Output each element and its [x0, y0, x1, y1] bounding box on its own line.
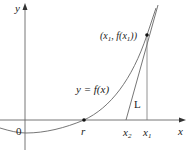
point-label: (x1, f(x1))	[100, 30, 138, 43]
root-point	[82, 118, 86, 122]
curve-label: y = f(x)	[75, 83, 109, 96]
x1-subscript: 1	[148, 132, 152, 140]
x-axis-arrow-icon	[179, 118, 186, 123]
point-label-close: ))	[129, 30, 137, 42]
tangent-line	[126, 5, 158, 120]
point-label-mid: , f(x	[111, 30, 127, 42]
root-label: r	[81, 125, 86, 137]
x-axis-label: x	[177, 125, 183, 137]
origin-label: 0	[16, 125, 22, 137]
x2-label: x2	[122, 126, 132, 140]
y-axis-label: y	[14, 2, 20, 14]
tangent-label: L	[134, 98, 141, 110]
curve-f	[0, 8, 156, 133]
x-axis	[0, 118, 186, 123]
x1-label: x1	[142, 126, 151, 140]
x2-subscript: 2	[128, 132, 132, 140]
y-axis-arrow-icon	[23, 3, 28, 10]
newton-method-diagram: y x 0 r x2 x1 L y = f(x) (x1, f(x1))	[0, 0, 188, 152]
y-axis	[23, 3, 28, 150]
tangent-point	[145, 33, 149, 37]
